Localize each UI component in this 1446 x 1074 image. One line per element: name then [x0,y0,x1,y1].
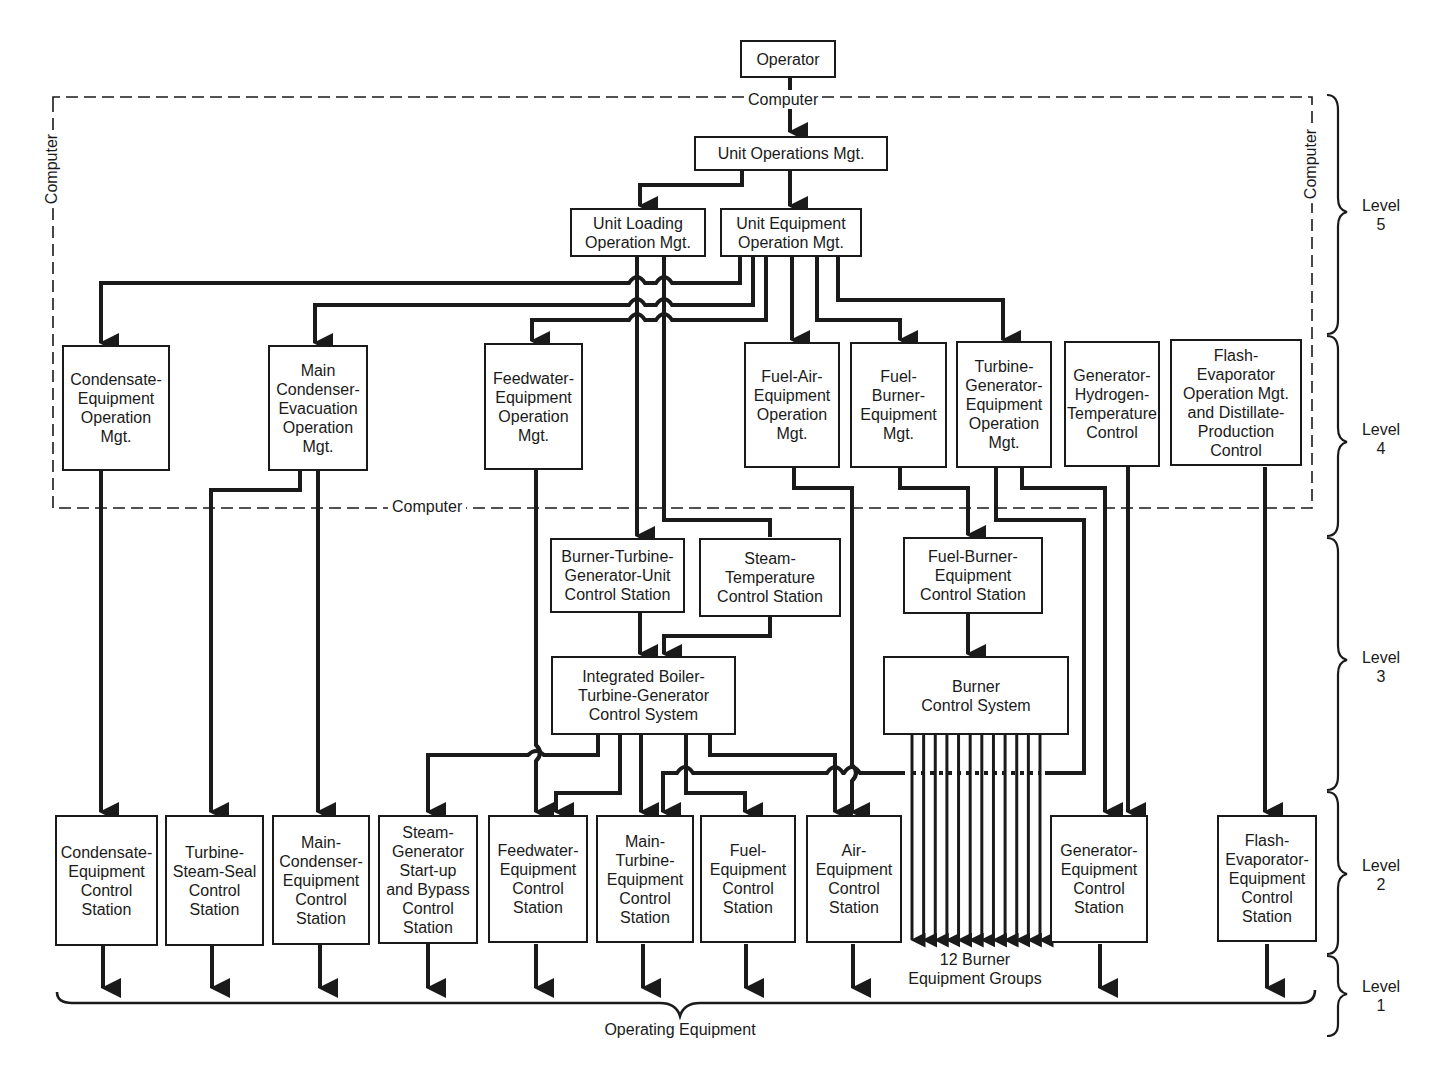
fuel-equipment-control-station: Fuel- Equipment Control Station [700,815,796,943]
unit-equipment-operation-box: Unit Equipment Operation Mgt. [720,208,862,257]
feedwater-equipment-operation-box: Feedwater- Equipment Operation Mgt. [484,343,583,470]
level-4-label: Level 4 [1355,420,1407,458]
fuel-burner-equipment-control-station: Fuel-Burner- Equipment Control Station [903,537,1043,614]
level-3-label: Level 3 [1355,648,1407,686]
computer-label-right: Computer [1302,125,1320,203]
steam-generator-startup-bypass-station: Steam- Generator Start-up and Bypass Con… [378,815,478,944]
operator-box: Operator [740,40,836,78]
level-braces [1327,95,1347,1036]
steam-temperature-control-station: Steam- Temperature Control Station [699,538,841,617]
computer-label-top: Computer [744,90,822,109]
level-5-label: Level 5 [1355,196,1407,234]
main-turbine-equipment-control-station: Main- Turbine- Equipment Control Station [596,815,694,943]
level-1-label: Level 1 [1355,977,1407,1015]
turbine-generator-equipment-box: Turbine- Generator- Equipment Operation … [956,341,1052,468]
flash-evaporator-equipment-control-station: Flash- Evaporator- Equipment Control Sta… [1217,815,1317,942]
fuel-air-equipment-operation-box: Fuel-Air- Equipment Operation Mgt. [744,342,840,468]
generator-equipment-control-station: Generator- Equipment Control Station [1050,815,1148,943]
generator-hydrogen-temperature-box: Generator- Hydrogen- Temperature Control [1064,341,1160,467]
level-2-label: Level 2 [1355,856,1407,894]
fuel-burner-equipment-mgt-box: Fuel- Burner- Equipment Mgt. [850,342,947,468]
main-condenser-equipment-control-station: Main- Condenser- Equipment Control Stati… [272,815,370,945]
equipment-outputs [103,944,1267,988]
turbine-steam-seal-control-station: Turbine- Steam-Seal Control Station [165,815,264,946]
operating-equipment-label: Operating Equipment [560,1020,800,1039]
burner-control-system: Burner Control System [883,656,1069,735]
operating-equipment-brace [57,990,1315,1016]
burner-turbine-generator-unit-station: Burner-Turbine- Generator-Unit Control S… [550,538,685,613]
main-condenser-evacuation-box: Main Condenser- Evacuation Operation Mgt… [268,345,368,471]
burner-groups-label: 12 Burner Equipment Groups [880,950,1070,988]
feedwater-equipment-control-station: Feedwater- Equipment Control Station [488,815,588,943]
flash-evaporator-operation-box: Flash- Evaporator Operation Mgt. and Dis… [1170,339,1302,466]
burner-group-arrows [912,735,1040,940]
condensate-equipment-control-station: Condensate- Equipment Control Station [55,815,158,946]
air-equipment-control-station: Air- Equipment Control Station [806,815,902,943]
integrated-boiler-turbine-generator-system: Integrated Boiler- Turbine-Generator Con… [551,656,736,735]
unit-operations-mgt-box: Unit Operations Mgt. [694,136,888,171]
computer-label-left: Computer [43,130,61,208]
computer-label-bottom: Computer [388,497,466,516]
unit-loading-operation-box: Unit Loading Operation Mgt. [570,208,706,257]
condensate-equipment-operation-box: Condensate- Equipment Operation Mgt. [62,345,170,471]
